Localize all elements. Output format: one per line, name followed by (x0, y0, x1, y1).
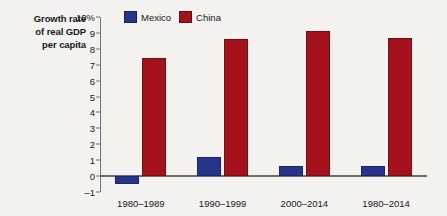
bar-mexico-1 (197, 157, 221, 176)
y-axis-tick-mark (96, 144, 100, 145)
y-axis-line (100, 17, 101, 192)
x-axis-tick-label: 2000–2014 (281, 198, 329, 209)
y-axis-tick-mark (96, 80, 100, 81)
x-axis-tick-label: 1980–2014 (362, 198, 410, 209)
y-axis-tick-mark (96, 64, 100, 65)
y-axis-tick-label: 6 (90, 75, 95, 86)
y-axis-title: Growth rateof real GDPper capita (2, 12, 86, 52)
y-axis-tick-mark (96, 17, 100, 18)
bar-china-0 (142, 58, 166, 176)
y-axis-tick-mark (96, 176, 100, 177)
y-axis-tick-mark (96, 32, 100, 33)
y-axis-tick-mark (96, 112, 100, 113)
y-axis-tick-mark (96, 192, 100, 193)
y-axis-tick-label: 9 (90, 27, 95, 38)
plot-area: 10%9876543210–11980–19891990–19992000–20… (100, 17, 427, 192)
x-axis-tick-label: 1990–1999 (199, 198, 247, 209)
y-axis-tick-mark (96, 160, 100, 161)
y-axis-tick-mark (96, 96, 100, 97)
bar-mexico-3 (361, 166, 385, 176)
y-axis-tick-label: 7 (90, 59, 95, 70)
y-axis-tick-label: 0 (90, 171, 95, 182)
bar-china-3 (388, 38, 412, 176)
y-axis-title-line-2: per capita (2, 38, 86, 51)
y-axis-tick-label: 5 (90, 91, 95, 102)
bar-mexico-2 (279, 166, 303, 176)
y-axis-tick-label: –1 (84, 187, 95, 198)
y-axis-tick-label: 10% (76, 12, 95, 23)
y-axis-tick-label: 3 (90, 123, 95, 134)
bar-china-1 (224, 39, 248, 176)
y-axis-title-line-0: Growth rate (2, 12, 86, 25)
bar-china-2 (306, 31, 330, 176)
y-axis-tick-mark (96, 128, 100, 129)
bar-mexico-0 (115, 176, 139, 184)
y-axis-tick-label: 1 (90, 155, 95, 166)
y-axis-tick-label: 2 (90, 139, 95, 150)
y-axis-tick-mark (96, 48, 100, 49)
y-axis-title-line-1: of real GDP (2, 25, 86, 38)
y-axis-tick-label: 8 (90, 43, 95, 54)
chart-figure: Growth rateof real GDPper capita MexicoC… (0, 0, 447, 216)
x-axis-tick-label: 1980–1989 (117, 198, 165, 209)
y-axis-tick-label: 4 (90, 107, 95, 118)
